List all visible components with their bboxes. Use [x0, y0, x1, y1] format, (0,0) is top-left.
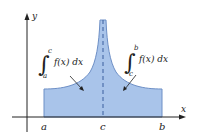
- y-axis-arrow-icon: [25, 13, 30, 20]
- upper-limit: b: [134, 44, 139, 52]
- right-integral-label: ∫ b c f(x) dx: [124, 44, 168, 78]
- y-axis-label: y: [31, 11, 38, 21]
- upper-limit: c: [48, 47, 52, 55]
- tick-label-b: b: [159, 121, 165, 132]
- integrand: f(x) dx: [53, 57, 83, 67]
- tick-label-c: c: [100, 121, 106, 132]
- lower-limit: a: [43, 72, 47, 80]
- x-axis-label: x: [181, 104, 186, 114]
- integrand: f(x) dx: [138, 54, 168, 64]
- x-axis-arrow-icon: [179, 115, 186, 120]
- improper-integral-diagram: x y a c b ∫ c a f(x) dx ∫ b c f(x) dx: [0, 0, 199, 139]
- left-integral-label: ∫ c a f(x) dx: [38, 47, 83, 80]
- tick-label-a: a: [41, 121, 47, 132]
- lower-limit: c: [129, 70, 133, 78]
